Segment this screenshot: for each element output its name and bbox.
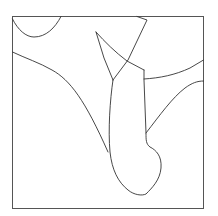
top-right-spike	[113, 17, 147, 81]
drawing-frame	[13, 17, 204, 209]
right-lower-curve	[146, 81, 204, 133]
line-drawing	[0, 0, 218, 216]
upper-diagonal-line	[96, 32, 144, 70]
right-upper-curve	[144, 60, 204, 79]
upper-vertex-left-edge	[96, 32, 113, 80]
left-sweeping-curve	[13, 52, 109, 152]
line-drawing-canvas	[0, 0, 218, 216]
central-elongated-shape	[109, 70, 161, 195]
top-left-arc	[13, 17, 62, 38]
